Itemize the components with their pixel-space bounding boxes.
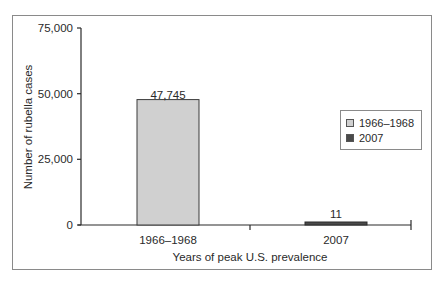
data-label-1966-1968: 47,745 [150,89,185,101]
bar-1966-1968 [137,100,199,225]
y-tick-label: 50,000 [38,88,73,100]
legend-label: 2007 [359,132,383,144]
x-tick-label: 1966–1968 [139,234,197,246]
legend-swatch-dark [346,134,354,142]
legend-item: 1966–1968 [346,115,421,130]
y-tick-label: 75,000 [38,22,73,34]
legend-item: 2007 [346,130,421,145]
legend: 1966–1968 2007 [340,110,422,150]
x-axis-title: Years of peak U.S. prevalence [173,251,328,263]
legend-swatch-light [346,119,354,127]
data-label-2007: 11 [330,208,342,220]
bar-2007 [305,222,367,225]
y-tick-label: 25,000 [38,153,73,165]
y-tick-label: 0 [67,219,73,231]
y-ticks: 75,000 50,000 25,000 0 [38,22,81,231]
y-axis-title: Number of rubella cases [22,64,34,189]
x-tick-label: 2007 [323,234,349,246]
legend-label: 1966–1968 [359,117,414,129]
